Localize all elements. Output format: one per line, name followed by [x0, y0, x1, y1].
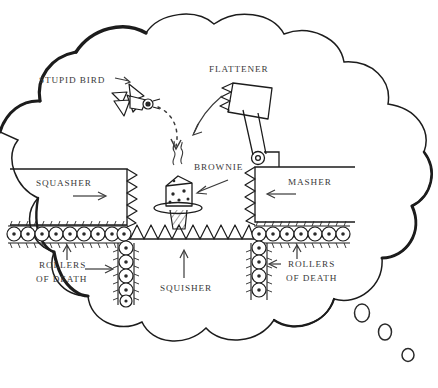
squasher-label: SQUASHER	[36, 178, 92, 188]
thought-circle-small	[402, 349, 414, 362]
bird-flight-path	[158, 107, 181, 149]
squisher-direction-arrow	[180, 250, 188, 278]
rollers-of-death-right-label-line1: ROLLERS	[288, 259, 335, 269]
thought-circle-medium	[379, 324, 392, 340]
masher-block[interactable]	[245, 167, 355, 225]
rollers-right-up-arrow	[293, 245, 301, 259]
stupid-bird[interactable]	[112, 84, 160, 116]
sketch-canvas: SQUASHER MASHER FLATTENER	[0, 0, 438, 388]
rollers-right-left-arrow	[269, 260, 281, 268]
flattener-label: FLATTENER	[209, 64, 269, 74]
masher-label: MASHER	[288, 177, 332, 187]
flattener-hammer[interactable]	[220, 83, 279, 167]
flattener-swing-arrow	[193, 96, 222, 135]
stupid-bird-label: STUPID BIRD	[39, 75, 105, 85]
rollers-of-death-right-vertical[interactable]	[246, 241, 272, 300]
squisher-label: SQUISHER	[160, 283, 212, 293]
rollers-of-death-left-label-line2: OF DEATH	[36, 274, 87, 284]
diagram-svg: SQUASHER MASHER FLATTENER	[0, 0, 438, 388]
rollers-left-right-arrow	[85, 265, 113, 273]
squisher-floor[interactable]	[128, 225, 256, 239]
rollers-of-death-left-vertical[interactable]	[113, 241, 139, 307]
thought-circle-large	[355, 304, 370, 322]
stupid-bird-pointer-arrow	[115, 77, 130, 84]
flattener-pivot	[252, 152, 265, 165]
brownie[interactable]	[154, 141, 202, 229]
rollers-of-death-right-label-line2: OF DEATH	[286, 273, 337, 283]
rollers-left-up-arrow	[63, 245, 71, 260]
roller	[119, 241, 133, 307]
rollers-of-death-left-label-line1: ROLLERS	[39, 260, 86, 270]
brownie-pointer-arrow	[197, 180, 228, 194]
thought-trail-circles	[355, 304, 415, 362]
brownie-label: BROWNIE	[194, 162, 243, 172]
